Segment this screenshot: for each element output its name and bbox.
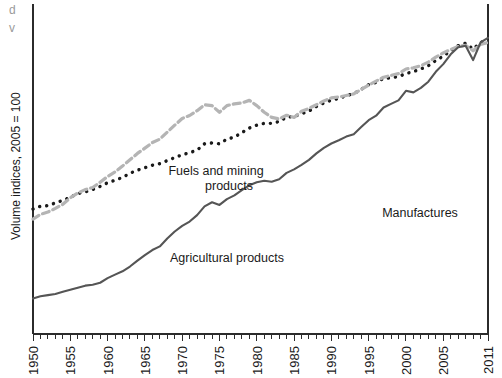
trade-volume-line-chart: d v Volume indices, 2005 = 100 195019551… xyxy=(0,0,502,378)
x-axis-tick-label: 2000 xyxy=(399,346,414,375)
x-axis-tick-label: 1995 xyxy=(362,346,377,375)
x-axis-tick-labels: 1950195519601965197019751980198519901995… xyxy=(26,346,496,375)
chart-figure: d v Volume indices, 2005 = 100 195019551… xyxy=(0,0,502,378)
x-axis-tick-label: 1965 xyxy=(138,346,153,375)
x-axis-tick-label: 1950 xyxy=(26,346,41,375)
series-annotations-group: Fuels and miningproductsAgricultural pro… xyxy=(168,164,457,265)
clipped-text-1: d xyxy=(9,3,16,17)
x-axis-tick-label: 1955 xyxy=(63,346,78,375)
x-axis-tick-label: 2011 xyxy=(481,346,496,374)
x-axis-tick-label: 1975 xyxy=(212,346,227,375)
x-axis-tick-label: 1970 xyxy=(175,346,190,375)
series-line-0 xyxy=(33,39,488,209)
series-annotation-1: products xyxy=(205,179,253,193)
x-axis-tick-label: 1990 xyxy=(324,346,339,375)
clipped-text-2: v xyxy=(9,21,15,35)
y-axis-title-group: Volume indices, 2005 = 100 xyxy=(9,92,23,240)
clipped-top-left-text: d v xyxy=(9,3,16,35)
y-axis-title: Volume indices, 2005 = 100 xyxy=(9,92,23,240)
series-annotation-0: Fuels and mining xyxy=(168,164,263,178)
x-axis-tick-marks xyxy=(33,334,488,341)
series-annotation-2: Agricultural products xyxy=(170,251,284,265)
series-line-1 xyxy=(33,42,488,219)
x-axis-tick-label: 1980 xyxy=(250,346,265,375)
x-axis-tick-label: 1960 xyxy=(101,346,116,375)
x-axis-tick-label: 1985 xyxy=(287,346,302,375)
series-annotation-3: Manufactures xyxy=(382,206,458,220)
x-axis-tick-label: 2005 xyxy=(436,346,451,375)
